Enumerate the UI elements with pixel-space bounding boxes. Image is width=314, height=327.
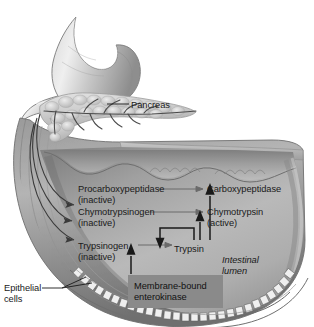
label-membrane-bound-enterokinase: Membrane-bound enterokinase xyxy=(134,281,207,303)
label-chymotrypsin-state: (active) xyxy=(207,218,263,229)
label-epithelial-cells-line2: cells xyxy=(4,294,41,305)
label-intestinal-lumen-line1: Intestinal xyxy=(222,255,259,266)
label-enterokinase-line1: Membrane-bound xyxy=(134,281,207,292)
label-procarboxypeptidase-state: (inactive) xyxy=(78,195,164,206)
label-trypsinogen-name: Trypsinogen xyxy=(78,241,128,252)
label-chymotrypsin: Chymotrypsin (active) xyxy=(207,207,263,229)
pancreas-organ xyxy=(40,93,196,142)
label-chymotrypsinogen: Chymotrypsinogen (inactive) xyxy=(78,207,155,229)
label-trypsin: Trypsin xyxy=(174,244,204,255)
label-pancreas: Pancreas xyxy=(131,100,170,111)
label-procarboxypeptidase: Procarboxypeptidase (inactive) xyxy=(78,184,164,206)
label-intestinal-lumen-line2: lumen xyxy=(222,266,259,277)
label-trypsinogen: Trypsinogen (inactive) xyxy=(78,241,128,263)
label-enterokinase-line2: enterokinase xyxy=(134,292,207,303)
label-epithelial-cells: Epithelial cells xyxy=(4,283,41,305)
label-trypsinogen-state: (inactive) xyxy=(78,252,128,263)
label-chymotrypsin-name: Chymotrypsin xyxy=(207,207,263,218)
label-carboxypeptidase: Carboxypeptidase xyxy=(207,184,281,195)
label-chymotrypsinogen-name: Chymotrypsinogen xyxy=(78,207,155,218)
enzyme-activation-figure: Trypsin (horizontal, light) --> Chymotry… xyxy=(0,0,314,327)
label-chymotrypsinogen-state: (inactive) xyxy=(78,218,155,229)
label-procarboxypeptidase-name: Procarboxypeptidase xyxy=(78,184,164,195)
label-intestinal-lumen: Intestinal lumen xyxy=(222,255,259,277)
label-epithelial-cells-line1: Epithelial xyxy=(4,283,41,294)
